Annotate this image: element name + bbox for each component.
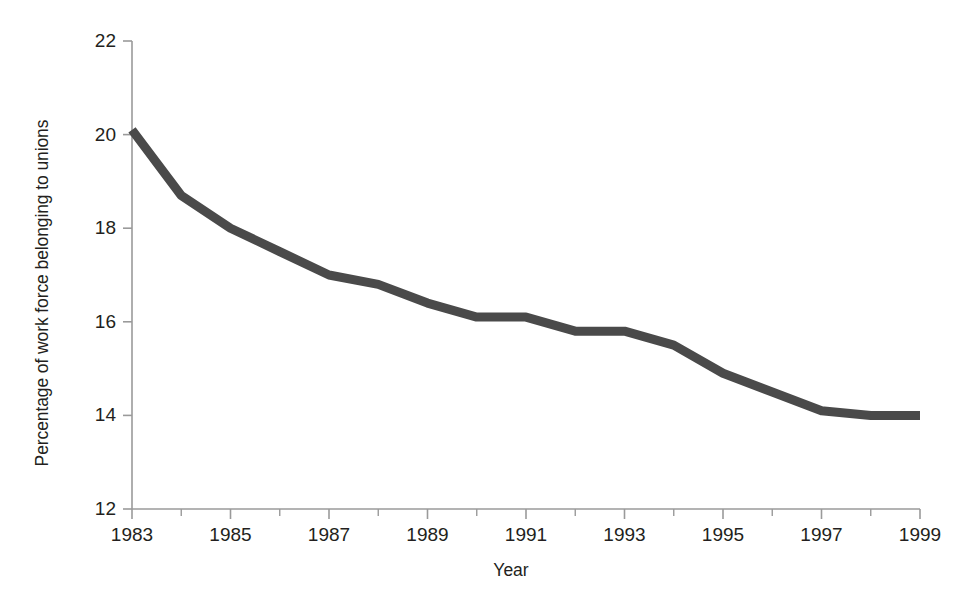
y-tick-label: 20 [95,124,116,145]
axis-tick-labels: 1214161820221983198519871989199119931995… [95,30,941,545]
x-tick-label: 1993 [603,524,645,545]
x-tick-label: 1983 [111,524,153,545]
data-line [132,130,920,415]
y-tick-label: 18 [95,217,116,238]
x-tick-label: 1987 [308,524,350,545]
axis-ticks [123,41,920,519]
y-tick-label: 12 [95,498,116,519]
x-tick-label: 1995 [702,524,744,545]
x-tick-label: 1989 [406,524,448,545]
line-chart-plot: 1214161820221983198519871989199119931995… [0,0,978,609]
x-axis-title: Year [0,560,978,581]
x-tick-label: 1997 [800,524,842,545]
y-tick-label: 14 [95,404,117,425]
y-tick-label: 16 [95,311,116,332]
x-tick-label: 1985 [209,524,251,545]
axes [132,41,920,509]
y-tick-label: 22 [95,30,116,51]
data-series [132,130,920,415]
x-tick-label: 1999 [899,524,941,545]
x-tick-label: 1991 [505,524,547,545]
chart-figure: e b , . Percentage of work force belongi… [0,0,978,609]
